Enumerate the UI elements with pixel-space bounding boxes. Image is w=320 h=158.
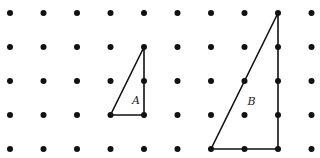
grid-dot bbox=[175, 146, 181, 152]
grid-dot bbox=[208, 10, 214, 16]
grid-dot bbox=[242, 78, 248, 84]
grid-dot bbox=[74, 146, 80, 152]
grid-dot bbox=[208, 44, 214, 50]
grid-dot bbox=[309, 44, 315, 50]
grid-dot bbox=[141, 112, 147, 118]
grid-dot bbox=[175, 10, 181, 16]
grid-dot bbox=[208, 78, 214, 84]
grid-dot bbox=[275, 146, 281, 152]
grid-dot bbox=[74, 44, 80, 50]
grid-dot bbox=[41, 10, 47, 16]
dot-grid-diagram: AB bbox=[0, 0, 320, 158]
grid-dot bbox=[108, 10, 114, 16]
grid-dot bbox=[141, 146, 147, 152]
grid-dot bbox=[275, 44, 281, 50]
grid-dot bbox=[309, 78, 315, 84]
grid-dot bbox=[7, 78, 13, 84]
grid-dot bbox=[309, 10, 315, 16]
grid-dot bbox=[175, 78, 181, 84]
grid-dot bbox=[175, 44, 181, 50]
grid-dot bbox=[275, 78, 281, 84]
grid-dot bbox=[74, 78, 80, 84]
grid-dot bbox=[309, 112, 315, 118]
label-b: B bbox=[247, 95, 256, 108]
label-a: A bbox=[131, 94, 140, 107]
grid-dot bbox=[208, 146, 214, 152]
grid-dot bbox=[275, 112, 281, 118]
grid-dot bbox=[108, 146, 114, 152]
grid-dot bbox=[74, 10, 80, 16]
triangles-layer bbox=[111, 13, 279, 149]
grid-dot bbox=[242, 10, 248, 16]
grid-dot bbox=[141, 44, 147, 50]
grid-dot bbox=[175, 112, 181, 118]
grid-dot bbox=[141, 78, 147, 84]
grid-dot bbox=[7, 44, 13, 50]
grid-dot bbox=[7, 146, 13, 152]
grid-dot bbox=[242, 146, 248, 152]
grid-dot bbox=[141, 10, 147, 16]
grid-dot bbox=[7, 112, 13, 118]
grid-dot bbox=[108, 112, 114, 118]
grid-dot bbox=[275, 10, 281, 16]
grid-dot bbox=[41, 44, 47, 50]
grid-dot bbox=[7, 10, 13, 16]
grid-dot bbox=[41, 112, 47, 118]
grid-dot bbox=[108, 78, 114, 84]
grid-dot bbox=[208, 112, 214, 118]
grid-dot bbox=[41, 146, 47, 152]
grid-dot bbox=[242, 112, 248, 118]
grid-dot bbox=[41, 78, 47, 84]
grid-dot bbox=[108, 44, 114, 50]
grid-dot bbox=[242, 44, 248, 50]
grid-dot bbox=[309, 146, 315, 152]
grid-dot bbox=[74, 112, 80, 118]
